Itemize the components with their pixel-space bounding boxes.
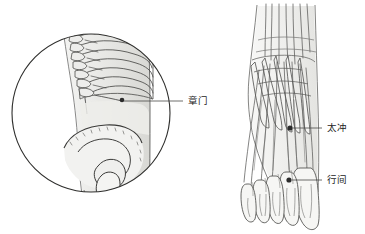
acupoint-marker-zhangmen[interactable] xyxy=(120,98,125,103)
acupoint-marker-taichong[interactable] xyxy=(287,125,292,130)
acupoint-marker-xingjian[interactable] xyxy=(286,177,291,182)
acupoint-label-taichong: 太冲 xyxy=(327,122,348,133)
anatomy-figure: 章门 太冲 行间 xyxy=(0,0,365,234)
acupoint-label-zhangmen: 章门 xyxy=(188,95,209,106)
figure-canvas: 章门 太冲 行间 xyxy=(0,0,365,234)
acupoint-label-xingjian: 行间 xyxy=(327,174,348,185)
